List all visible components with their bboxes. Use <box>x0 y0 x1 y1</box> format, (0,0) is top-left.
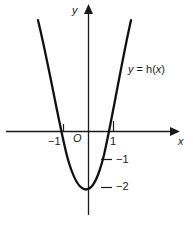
curve-label-eq: = h( <box>134 63 156 75</box>
y-axis-arrowhead <box>84 4 93 14</box>
origin-label: O <box>73 133 82 144</box>
x-tick-label-1: 1 <box>110 136 116 147</box>
y-axis-label: y <box>72 5 78 16</box>
curve-label-close: ) <box>161 63 165 75</box>
graph-figure: y x O −1 1 −1 −2 y = h(x) <box>0 0 193 229</box>
curve-equation-label: y = h(x) <box>128 64 165 75</box>
x-axis-label: x <box>178 136 184 147</box>
y-tick-label-neg1: −1 <box>116 154 129 165</box>
coordinate-plane <box>0 0 193 229</box>
x-tick-label-neg1: −1 <box>48 136 61 147</box>
y-tick-label-neg2: −2 <box>116 181 129 192</box>
